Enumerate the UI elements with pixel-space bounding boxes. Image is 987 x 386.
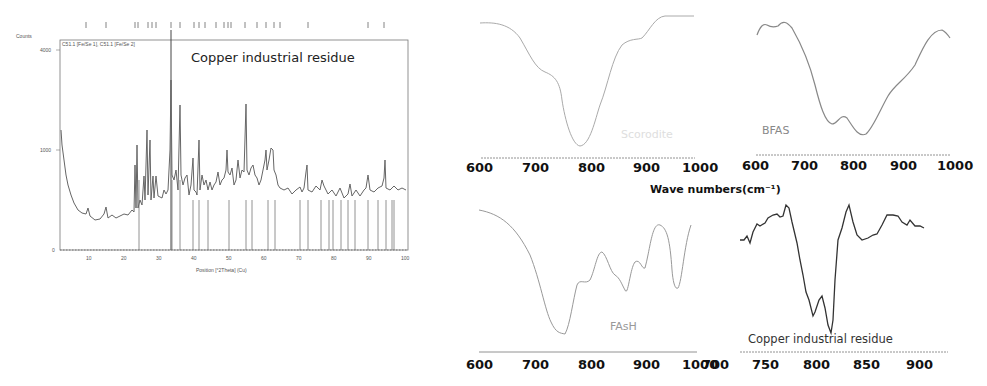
svg-text:800: 800 — [578, 160, 605, 175]
svg-text:600: 600 — [466, 357, 493, 372]
svg-text:900: 900 — [906, 357, 933, 372]
ftir-bfas-panel: BFAS 600700800 9001000 — [742, 22, 973, 173]
svg-text:90: 90 — [366, 255, 372, 261]
x-axis-label: Position [°2Theta] (Cu) — [196, 267, 247, 273]
ftir-scorodite-panel: Scorodite 600700800 9001000 — [466, 16, 718, 175]
svg-text:1000: 1000 — [40, 147, 51, 153]
x-ticks: 102030 405060 708090 100 — [86, 255, 410, 261]
fash-label: FAsH — [610, 320, 637, 333]
svg-text:60: 60 — [261, 255, 267, 261]
svg-text:50: 50 — [226, 255, 232, 261]
y-axis-label: Counts — [16, 33, 32, 39]
svg-text:750: 750 — [752, 357, 779, 372]
scorodite-trace — [480, 16, 694, 146]
svg-text:40: 40 — [191, 255, 197, 261]
svg-text:900: 900 — [633, 160, 660, 175]
svg-text:800: 800 — [578, 357, 605, 372]
svg-text:0: 0 — [52, 247, 55, 253]
svg-text:30: 30 — [156, 255, 162, 261]
svg-text:600: 600 — [742, 158, 769, 173]
svg-text:1000: 1000 — [937, 158, 973, 173]
svg-text:800: 800 — [803, 357, 830, 372]
fash-trace — [479, 210, 691, 334]
svg-text:800: 800 — [840, 158, 867, 173]
svg-text:850: 850 — [853, 357, 880, 372]
svg-text:600: 600 — [466, 160, 493, 175]
fash-x-ticks: 600700800 9001000 — [466, 357, 718, 372]
svg-text:70: 70 — [296, 255, 302, 261]
reference-markers — [86, 22, 384, 28]
svg-text:4000: 4000 — [40, 47, 51, 53]
figure-canvas: Counts C51.1 [Fe/Se 1], C51.1 [Fe/Se 2] … — [0, 0, 987, 386]
plot-frame — [60, 40, 408, 250]
svg-text:900: 900 — [633, 357, 660, 372]
svg-text:80: 80 — [331, 255, 337, 261]
svg-text:700: 700 — [522, 160, 549, 175]
copper-residue-label: Copper industrial residue — [748, 332, 893, 346]
scorodite-label: Scorodite — [621, 128, 673, 141]
svg-text:700: 700 — [702, 357, 729, 372]
legend-text: C51.1 [Fe/Se 1], C51.1 [Fe/Se 2] — [62, 41, 135, 47]
scorodite-x-ticks: 600700800 9001000 — [466, 160, 718, 175]
svg-text:700: 700 — [791, 158, 818, 173]
svg-text:100: 100 — [401, 255, 410, 261]
xrd-trace — [61, 80, 406, 220]
svg-text:700: 700 — [522, 357, 549, 372]
xrd-panel: Counts C51.1 [Fe/Se 1], C51.1 [Fe/Se 2] … — [16, 22, 410, 273]
y-axis: 4000 1000 0 — [40, 47, 60, 253]
svg-text:1000: 1000 — [682, 160, 718, 175]
ftir-copper-residue-panel: Copper industrial residue 700750800 8509… — [702, 205, 948, 372]
ftir-fash-panel: FAsH 600700800 9001000 — [466, 210, 718, 372]
bfas-label: BFAS — [762, 124, 789, 137]
svg-text:10: 10 — [86, 255, 92, 261]
wave-numbers-label: Wave numbers(cm⁻¹) — [650, 183, 781, 196]
bfas-x-ticks: 600700800 9001000 — [742, 158, 973, 173]
svg-text:900: 900 — [890, 158, 917, 173]
svg-text:20: 20 — [121, 255, 127, 261]
copper-residue-trace — [740, 205, 924, 333]
xrd-title: Copper industrial residue — [191, 50, 355, 65]
bfas-trace — [757, 22, 950, 134]
copper-residue-x-ticks: 700750800 850900 — [702, 357, 933, 372]
